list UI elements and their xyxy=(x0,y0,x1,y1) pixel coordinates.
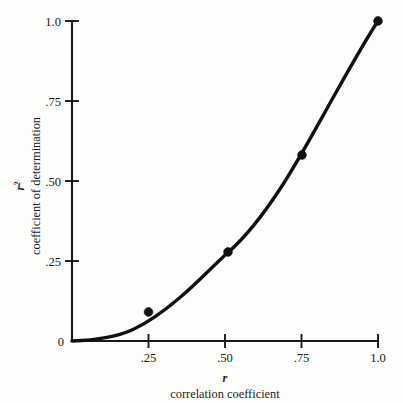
y-tick-label-0-25: .25 xyxy=(45,255,61,269)
y-axis-tick-labels: 1.0 .75 .50 .25 0 xyxy=(45,15,64,349)
data-point-r-1-0[interactable] xyxy=(374,17,383,26)
y-axis-variable-label: r2 xyxy=(13,182,27,191)
x-tick-label-0-50: .50 xyxy=(217,351,233,365)
y-tick-label-1-0: 1.0 xyxy=(45,15,61,29)
data-point-r-0-25[interactable] xyxy=(144,308,153,317)
x-axis-title: correlation coefficient xyxy=(170,387,280,401)
x-axis-tick-labels: .25 .50 .75 1.0 xyxy=(141,351,386,365)
x-axis-variable-label: r xyxy=(223,371,228,385)
y-tick-label-0-75: .75 xyxy=(45,95,61,109)
data-point-r-0-50[interactable] xyxy=(224,248,233,257)
r-squared-curve xyxy=(72,21,378,341)
chart-canvas: 1.0 .75 .50 .25 0 .25 .50 .75 1.0 r corr… xyxy=(0,0,403,403)
chart-figure: 1.0 .75 .50 .25 0 .25 .50 .75 1.0 r corr… xyxy=(0,0,403,403)
x-tick-label-0-25: .25 xyxy=(141,351,157,365)
x-tick-label-1-0: 1.0 xyxy=(370,351,386,365)
y-tick-label-0: 0 xyxy=(58,335,64,349)
y-axis-title: coefficient of determination xyxy=(29,117,43,255)
y-tick-label-0-50: .50 xyxy=(45,175,61,189)
x-tick-label-0-75: .75 xyxy=(294,351,310,365)
data-point-r-0-75[interactable] xyxy=(298,151,307,160)
axes-group xyxy=(72,21,378,341)
data-point-markers xyxy=(144,17,382,317)
